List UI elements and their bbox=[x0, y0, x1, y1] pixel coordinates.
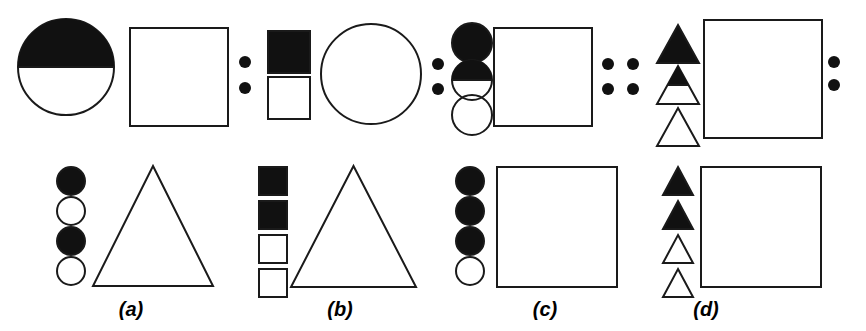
panel-a-top-large-square bbox=[130, 28, 228, 126]
panel-d-bottom-row bbox=[663, 167, 821, 297]
shape-triangle-none bbox=[663, 235, 693, 263]
shape-circle-full bbox=[456, 167, 484, 195]
separator-dot bbox=[602, 58, 614, 70]
shape-triangle-full bbox=[663, 201, 693, 229]
separator-c-d bbox=[602, 58, 639, 95]
panel-c-top-row bbox=[452, 23, 592, 135]
shape-triangle-none bbox=[657, 108, 699, 146]
shape-triangle-full bbox=[657, 25, 699, 63]
panel-d-bottom-large-square bbox=[701, 167, 821, 287]
panel-label-a: (a) bbox=[111, 298, 151, 321]
shape-square-none bbox=[268, 77, 310, 119]
separator-right-edge bbox=[828, 56, 840, 91]
panel-label-d: (d) bbox=[686, 298, 726, 321]
panel-a-bottom-row bbox=[57, 166, 213, 286]
panel-c-bottom-row bbox=[456, 167, 617, 287]
panel-d-top-large-square bbox=[704, 20, 822, 138]
separator-dot bbox=[432, 58, 444, 70]
panel-d-top-row bbox=[657, 20, 822, 146]
separator-dot bbox=[828, 79, 840, 91]
shape-circle-full bbox=[456, 197, 484, 225]
panel-b-top-large-circle bbox=[321, 24, 421, 124]
panel-a-top-small-shapes bbox=[18, 19, 114, 115]
panel-a-bottom-large-triangle bbox=[93, 166, 213, 286]
panel-b-top-row bbox=[268, 24, 421, 124]
shape-square-none bbox=[259, 269, 287, 297]
separator-dot bbox=[602, 83, 614, 95]
separator-a-b bbox=[239, 56, 251, 94]
shape-circle-full bbox=[57, 167, 85, 195]
shapes-layer bbox=[0, 0, 866, 331]
panel-b-bottom-small-shapes bbox=[259, 167, 287, 297]
shape-circle-full bbox=[452, 23, 492, 63]
panel-c-top-large-square bbox=[494, 28, 592, 126]
panel-label-c: (c) bbox=[525, 298, 565, 321]
panel-d-top-small-shapes bbox=[657, 25, 699, 146]
panel-c-bottom-small-shapes bbox=[456, 167, 484, 285]
panel-a-bottom-small-shapes bbox=[57, 167, 85, 285]
shape-circle-full bbox=[57, 227, 85, 255]
shape-square-none bbox=[259, 235, 287, 263]
panel-d-bottom-small-shapes bbox=[663, 167, 693, 297]
shape-circle-half-top bbox=[18, 19, 114, 115]
shape-circle-none bbox=[456, 257, 484, 285]
shape-square-full bbox=[259, 201, 287, 229]
shape-triangle-half-top bbox=[657, 66, 699, 104]
separator-b-c bbox=[432, 58, 444, 95]
panel-b-bottom-row bbox=[259, 166, 416, 297]
panel-b-bottom-large-triangle bbox=[291, 166, 416, 287]
shape-triangle-full bbox=[663, 167, 693, 195]
shape-circle-none bbox=[57, 197, 85, 225]
separator-dot bbox=[432, 83, 444, 95]
shape-square-full bbox=[259, 167, 287, 195]
separator-dot bbox=[828, 56, 840, 68]
panel-label-b: (b) bbox=[320, 298, 360, 321]
shape-square-full bbox=[268, 31, 310, 73]
separator-dot bbox=[239, 56, 251, 68]
figure-canvas: (a) (b) (c) (d) bbox=[0, 0, 866, 331]
separator-dot bbox=[627, 83, 639, 95]
panel-b-top-small-shapes bbox=[268, 31, 310, 119]
panel-a-top-row bbox=[18, 19, 228, 126]
panel-c-top-small-shapes bbox=[452, 23, 492, 135]
panel-c-bottom-large-square bbox=[497, 167, 617, 287]
shape-circle-full bbox=[456, 227, 484, 255]
shape-circle-none bbox=[57, 257, 85, 285]
shape-triangle-none bbox=[663, 269, 693, 297]
separator-dot bbox=[239, 82, 251, 94]
separator-dot bbox=[627, 58, 639, 70]
